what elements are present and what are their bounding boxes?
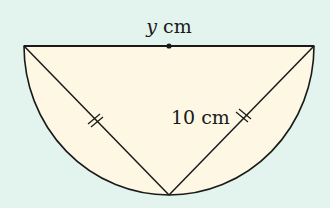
semicircle-diagram: y cm 10 cm [0, 0, 330, 208]
side-length-label: 10 cm [171, 106, 230, 128]
semicircle-shape [24, 46, 314, 195]
diameter-label: y cm [145, 15, 191, 37]
diameter-variable: y [145, 15, 157, 37]
diameter-unit: cm [157, 15, 192, 37]
center-point [166, 43, 171, 48]
